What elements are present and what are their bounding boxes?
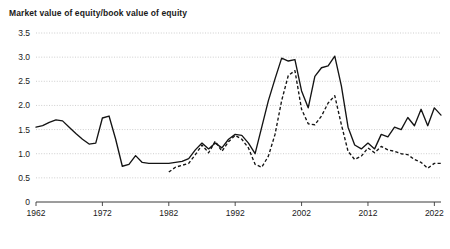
series-line-solid-line [36,56,441,166]
x-tick-label: 2002 [292,208,311,218]
series-line-dashed-line [169,71,441,172]
x-tick-label: 1972 [93,208,112,218]
x-tick-label: 2022 [425,208,444,218]
y-tick-label: 0.5 [18,173,30,183]
y-tick-label: 3.0 [18,52,30,62]
x-tick-label: 1982 [159,208,178,218]
chart-container: Market value of equity/book value of equ… [0,0,450,249]
x-tick-label: 1992 [226,208,245,218]
y-tick-label: 2.0 [18,100,30,110]
x-tick-label: 2012 [359,208,378,218]
y-tick-label: 1.5 [18,125,30,135]
y-tick-label: 1.0 [18,149,30,159]
y-tick-label: 3.5 [18,28,30,38]
x-axis-tick-labels: 1962197219821992200220122022 [27,208,445,218]
x-axis [36,202,441,206]
data-series [36,56,441,172]
y-tick-label: 2.5 [18,76,30,86]
gridlines [36,33,441,178]
y-tick-label: 0 [25,197,30,207]
line-chart-plot: 00.51.01.52.02.53.03.5 19621972198219922… [0,0,450,249]
x-tick-label: 1962 [27,208,46,218]
y-axis-tick-labels: 00.51.01.52.02.53.03.5 [18,28,30,207]
